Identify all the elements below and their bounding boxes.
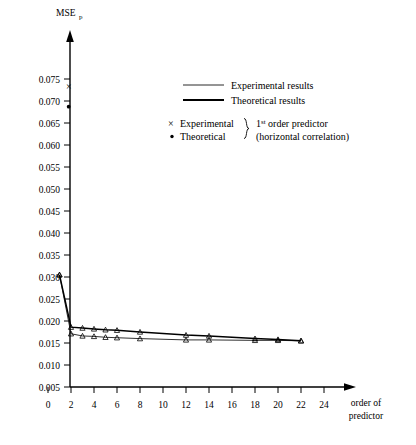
x-axis-title-line2: predictor: [349, 411, 384, 421]
series-layer: [57, 272, 304, 343]
legend-note-line1: 1st order predictor: [256, 118, 328, 130]
x-axis-tick-labels: 0 2 4 6 8 10 12 14 16 18 20 22 24: [46, 400, 329, 410]
y-axis-arrowhead: [66, 30, 74, 42]
y-axis-title-subscript: p: [79, 13, 83, 21]
x-tick-label: 20: [273, 400, 283, 410]
legend-cross-icon: ×: [168, 118, 174, 129]
legend-note-line2: (horizontal correlation): [256, 131, 349, 143]
x-tick-label: 18: [250, 400, 260, 410]
x-tick-label: 4: [92, 400, 97, 410]
y-axis-ticks: [64, 79, 70, 387]
legend-brace-icon: [244, 119, 249, 139]
y-tick-label: 0.055: [39, 163, 61, 173]
legend-label-theoretical-point: Theoretical: [180, 131, 226, 142]
legend-label-experimental-results: Experimental results: [231, 80, 314, 91]
y-tick-label: 0.075: [39, 75, 61, 85]
legend: Experimental results Theoretical results…: [168, 80, 349, 143]
x-tick-label: 6: [115, 400, 120, 410]
x-tick-label: 0: [46, 400, 51, 410]
x-tick-label: 14: [204, 400, 214, 410]
legend-label-experimental-point: Experimental: [180, 118, 234, 129]
x-axis-title: order of predictor: [349, 398, 384, 421]
x-tick-label: 12: [181, 400, 191, 410]
y-tick-label: 0.065: [39, 119, 61, 129]
x-axis-ticks: [48, 387, 324, 393]
point-theoretical-first-order: [67, 105, 71, 109]
x-tick-label: 10: [158, 400, 168, 410]
y-tick-label: 0.020: [39, 317, 61, 327]
x-tick-label: 24: [319, 400, 329, 410]
series-theoretical: [57, 272, 304, 343]
y-tick-label: 0.050: [39, 185, 61, 195]
legend-note-line1-post: order predictor: [266, 118, 329, 129]
legend-dot-icon: [170, 135, 173, 138]
y-tick-label: 0.030: [39, 273, 61, 283]
y-tick-label: 0.010: [39, 361, 61, 371]
y-tick-label: 0.015: [39, 339, 61, 349]
y-tick-label: 0.035: [39, 251, 61, 261]
legend-label-theoretical-results: Theoretical results: [231, 95, 305, 106]
series-experimental: [57, 272, 304, 343]
y-tick-label: 0.040: [39, 229, 61, 239]
x-tick-label: 22: [296, 400, 306, 410]
y-tick-label: 0.005: [39, 383, 61, 393]
y-tick-label: 0.025: [39, 295, 61, 305]
chart-figure: 0.005 0.010 0.015 0.020 0.025 0.030 0.03…: [0, 0, 416, 445]
y-tick-label: 0.045: [39, 207, 61, 217]
x-axis-title-line1: order of: [351, 398, 382, 408]
x-tick-label: 2: [69, 400, 74, 410]
point-experimental-first-order: ×: [66, 81, 72, 92]
y-tick-label: 0.060: [39, 141, 61, 151]
y-axis-title-main: MSE: [56, 8, 76, 18]
chart-svg: 0.005 0.010 0.015 0.020 0.025 0.030 0.03…: [0, 0, 416, 445]
y-axis-tick-labels: 0.005 0.010 0.015 0.020 0.025 0.030 0.03…: [39, 75, 61, 393]
y-tick-label: 0.070: [39, 97, 61, 107]
x-tick-label: 8: [138, 400, 143, 410]
y-axis-title: MSE p: [56, 8, 83, 21]
x-axis: [70, 383, 356, 391]
x-tick-label: 16: [227, 400, 237, 410]
x-axis-arrowhead: [344, 383, 356, 391]
